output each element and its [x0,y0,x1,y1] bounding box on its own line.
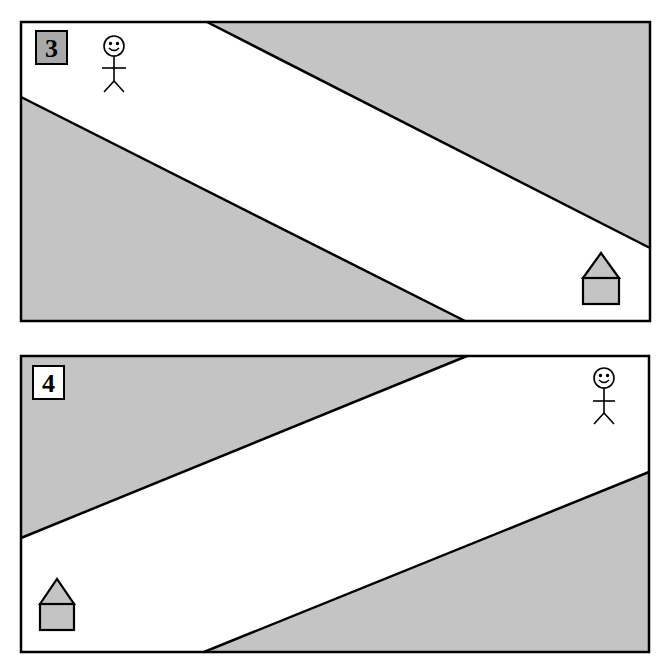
panel-number-badge: 3 [36,31,67,64]
panel-3: 3 [0,0,672,335]
panel-number: 3 [45,34,58,63]
panel-number-badge: 4 [33,366,64,399]
panel-number: 4 [42,369,55,398]
panel-4: 4 [0,335,672,667]
